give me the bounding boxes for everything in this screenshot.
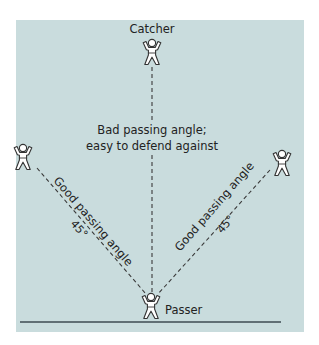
passer-label: Passer (165, 303, 203, 317)
bad-angle-label-line1: Bad passing angle; (97, 123, 206, 137)
catcher-label: Catcher (129, 22, 174, 36)
bad-angle-label-line2: easy to defend against (86, 139, 218, 153)
passing-angles-diagram: Catcher Bad passing angle; easy to defen… (0, 0, 319, 345)
